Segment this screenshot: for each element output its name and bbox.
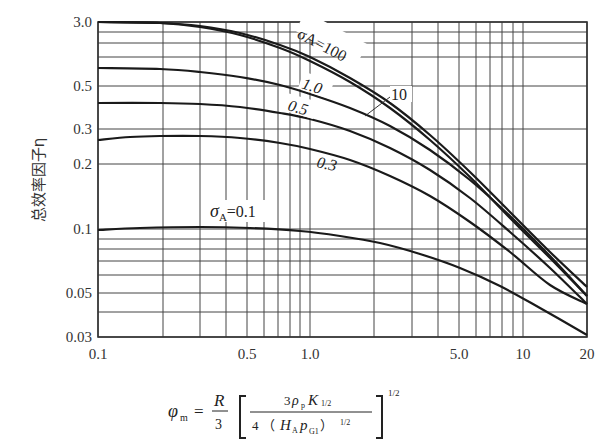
svg-text:p: p — [301, 401, 305, 410]
left-bracket — [240, 396, 246, 438]
svg-text:H: H — [279, 417, 292, 433]
svg-text:m: m — [180, 412, 188, 423]
x-tick-label: 10 — [516, 346, 531, 362]
y-tick-label: 0.3 — [73, 121, 92, 137]
svg-text:A: A — [292, 426, 298, 435]
svg-text:（: （ — [262, 418, 275, 433]
svg-text:）: ） — [320, 418, 333, 433]
svg-text:3: 3 — [215, 417, 222, 432]
curves — [98, 22, 587, 335]
y-tick-label: 0.1 — [73, 221, 92, 237]
y-tick-label: 0.03 — [66, 329, 92, 345]
x-tick-labels: 0.10.51.05.01020 — [89, 346, 595, 362]
svg-text:ρ: ρ — [291, 393, 299, 408]
svg-text:1/2: 1/2 — [321, 399, 331, 408]
x-tick-label: 5.0 — [450, 346, 469, 362]
curve-σA=0.5 — [98, 103, 587, 304]
svg-text:1/2: 1/2 — [340, 418, 350, 427]
y-tick-label: 3.0 — [73, 14, 92, 30]
y-tick-label: 0.05 — [66, 285, 92, 301]
svg-text:=: = — [194, 402, 204, 421]
y-tick-labels: 3.00.50.30.20.10.050.03 — [66, 14, 92, 345]
y-tick-label: 0.5 — [73, 78, 92, 94]
x-tick-label: 0.5 — [238, 346, 257, 362]
svg-text:1/2: 1/2 — [388, 388, 400, 398]
x-tick-label: 1.0 — [301, 346, 320, 362]
right-bracket — [376, 396, 382, 438]
svg-text:R: R — [213, 391, 225, 410]
svg-text:4: 4 — [252, 418, 259, 433]
svg-text:φ: φ — [168, 401, 178, 421]
y-tick-label: 0.2 — [73, 156, 92, 172]
curve-label-0-3: 0.3 — [315, 153, 338, 174]
curve-σA=0.1 — [98, 227, 587, 335]
curve-label-10: 10 — [391, 86, 407, 103]
y-axis-label: 总效率因子η — [30, 138, 48, 223]
svg-text:3: 3 — [284, 393, 291, 408]
chart: 3.00.50.30.20.10.050.03 0.10.51.05.01020… — [0, 0, 612, 448]
curve-label-sigma-0-1: σA=0.1 — [210, 201, 256, 223]
svg-text:K: K — [307, 392, 319, 408]
x-tick-label: 20 — [580, 346, 595, 362]
svg-text:G1: G1 — [309, 427, 319, 436]
x-tick-label: 0.1 — [89, 346, 108, 362]
svg-text:p: p — [299, 417, 308, 433]
x-axis-formula: φ m = R 3 3 ρ p K 1/2 4 （ H A p G1 ） 1/2… — [168, 388, 400, 438]
